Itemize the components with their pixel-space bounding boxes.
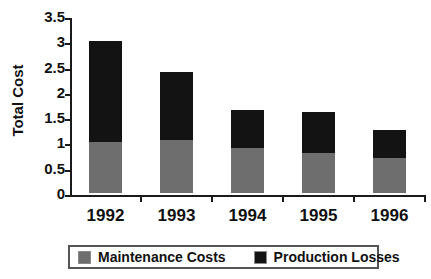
- bar-segment-production-1996: [373, 130, 406, 158]
- legend-label-maintenance: Maintenance Costs: [98, 249, 226, 265]
- chart-legend: Maintenance Costs Production Losses: [68, 245, 379, 269]
- bar-stack-1995: [302, 112, 335, 193]
- bar-segment-production-1994: [231, 110, 264, 148]
- bar-stack-1996: [373, 130, 406, 193]
- y-tick-mark: [65, 170, 72, 172]
- legend-item-maintenance-costs: Maintenance Costs: [78, 249, 226, 265]
- x-axis-label-1993: 1993: [141, 206, 212, 226]
- bar-stack-1993: [160, 72, 193, 193]
- x-tick-mark: [282, 195, 284, 202]
- legend-label-production: Production Losses: [274, 249, 400, 265]
- y-tick-mark: [65, 144, 72, 146]
- plot-area: 00.511.522.533.5 19921993199419951996: [70, 18, 425, 195]
- y-tick-label: 2: [57, 84, 65, 101]
- x-axis-label-1992: 1992: [70, 206, 141, 226]
- x-tick-mark: [424, 195, 426, 202]
- x-axis-line: [70, 195, 425, 197]
- y-tick-mark: [65, 195, 72, 197]
- y-axis-title: Total Cost: [9, 46, 26, 156]
- y-tick-mark: [65, 94, 72, 96]
- bar-segment-production-1993: [160, 72, 193, 140]
- y-tick-label: 0.5: [44, 160, 65, 177]
- x-tick-mark: [140, 195, 142, 202]
- y-tick-label: 3: [57, 33, 65, 50]
- y-tick-label: 1: [57, 134, 65, 151]
- stacked-bar-chart: Total Cost 00.511.522.533.5 199219931994…: [0, 0, 431, 279]
- x-axis-label-1994: 1994: [212, 206, 283, 226]
- bar-segment-maintenance-1992: [89, 142, 122, 193]
- legend-swatch-production-icon: [254, 251, 267, 264]
- bar-segment-maintenance-1996: [373, 158, 406, 193]
- y-tick-mark: [65, 69, 72, 71]
- y-tick-label: 2.5: [44, 59, 65, 76]
- y-tick-label: 0: [57, 185, 65, 202]
- bar-stack-1994: [231, 110, 264, 193]
- bar-stack-1992: [89, 41, 122, 193]
- bar-segment-production-1995: [302, 112, 335, 152]
- y-tick-mark: [65, 119, 72, 121]
- bar-segment-maintenance-1994: [231, 148, 264, 194]
- x-axis-label-1996: 1996: [354, 206, 425, 226]
- bar-segment-maintenance-1995: [302, 153, 335, 193]
- y-tick-label: 1.5: [44, 109, 65, 126]
- legend-item-production-losses: Production Losses: [254, 249, 400, 265]
- y-tick-mark: [65, 18, 72, 20]
- y-tick-mark: [65, 43, 72, 45]
- y-tick-label: 3.5: [44, 8, 65, 25]
- legend-swatch-maintenance-icon: [78, 251, 91, 264]
- bar-segment-production-1992: [89, 41, 122, 142]
- x-tick-mark: [211, 195, 213, 202]
- x-tick-mark: [353, 195, 355, 202]
- bar-segment-maintenance-1993: [160, 140, 193, 193]
- x-axis-label-1995: 1995: [283, 206, 354, 226]
